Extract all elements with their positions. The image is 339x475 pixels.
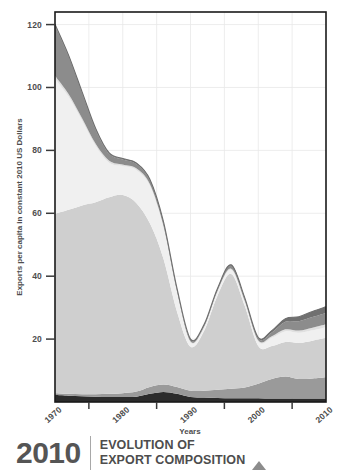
figure-root: 20406080100120 19701980199020002010 Year… [0,0,339,475]
caption-year: 2010 [16,434,90,472]
x-tick-label: 2010 [313,404,334,425]
caption-block: 2010 EVOLUTION OF EXPORT COMPOSITION [16,434,266,472]
x-tick-label: 1970 [42,404,63,425]
x-tick-label: 1990 [178,404,199,425]
y-tick-label: 100 [27,82,42,92]
caption-line-2: EXPORT COMPOSITION [100,453,246,468]
x-axis: 19701980199020002010 [42,402,334,425]
y-tick-label: 40 [32,271,42,281]
y-tick-label: 60 [32,208,42,218]
caption-text: EVOLUTION OF EXPORT COMPOSITION [91,434,246,472]
x-tick-label: 1980 [110,404,131,425]
export-composition-area-chart: 20406080100120 19701980199020002010 Year… [0,0,339,475]
y-tick-label: 80 [32,145,42,155]
caption-line-1: EVOLUTION OF [100,438,246,453]
x-tick-label: 2000 [246,404,267,425]
y-tick-label: 120 [27,20,42,30]
y-axis-title: Exports per capita in constant 2010 US D… [15,118,24,296]
triangle-up-icon [252,461,266,470]
y-axis: 20406080100120 [27,20,55,345]
y-tick-label: 20 [32,334,42,344]
